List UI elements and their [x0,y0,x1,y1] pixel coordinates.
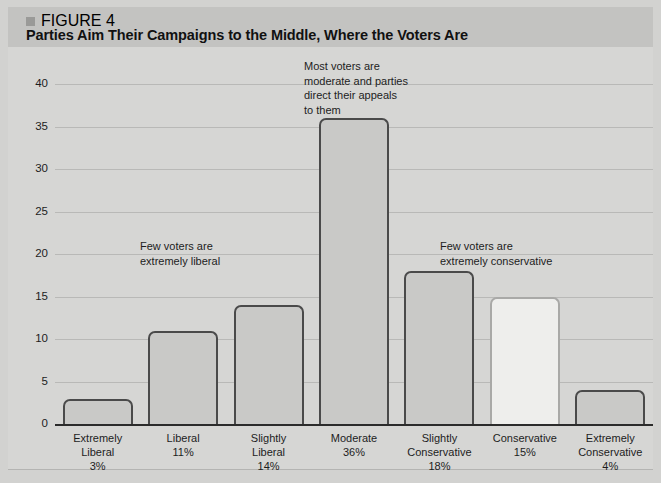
x-axis-label-line-1: Slightly [226,431,311,445]
figure-title: Parties Aim Their Campaigns to the Middl… [26,27,468,43]
x-axis-label-line-2: Conservative [397,445,482,459]
bar-conservative[interactable] [490,297,560,425]
figure-container: FIGURE 4 Parties Aim Their Campaigns to … [0,0,661,483]
x-axis-label-line-1: Extremely [55,431,140,445]
y-axis-tick-label: 35 [22,120,48,132]
x-axis-label-line-2: Liberal [226,445,311,459]
bar-slightly-liberal[interactable] [234,305,304,424]
y-axis-tick-label: 20 [22,247,48,259]
y-axis-tick-label: 15 [22,290,48,302]
x-axis-label-line-3: 14% [226,459,311,473]
x-axis-label: SlightlyConservative18% [397,431,482,473]
x-axis-label-line-1: Conservative [482,431,567,445]
x-axis-label-line-1: Liberal [140,431,225,445]
x-axis-label: ExtremelyLiberal3% [55,431,140,473]
x-axis-label-line-3: 4% [568,459,653,473]
x-axis-label-line-3: 18% [397,459,482,473]
plot-area: 0510152025303540 ExtremelyLiberal3%Liber… [8,47,653,470]
square-bullet-icon [26,17,35,26]
y-axis-tick-label: 30 [22,162,48,174]
bar-moderate[interactable] [319,118,389,424]
x-axis-line [55,424,653,426]
annotation-right: Few voters are extremely conservative [440,239,553,268]
annotation-center: Most voters are moderate and parties dir… [304,59,408,117]
annotation-left: Few voters are extremely liberal [140,239,220,268]
x-axis-label-line-2: Conservative [568,445,653,459]
x-axis-label-line-1: Slightly [397,431,482,445]
x-axis-label: SlightlyLiberal14% [226,431,311,473]
x-axis-label: ExtremelyConservative4% [568,431,653,473]
x-axis-label-line-2: 36% [311,445,396,459]
x-axis-label-line-1: Extremely [568,431,653,445]
y-axis-tick-label: 0 [22,417,48,429]
x-axis-label-line-2: Liberal [55,445,140,459]
x-axis-label-line-2: 15% [482,445,567,459]
x-axis-label: Moderate36% [311,431,396,459]
bar-slightly-conservative[interactable] [404,271,474,424]
bar-liberal[interactable] [148,331,218,425]
y-axis-tick-label: 5 [22,375,48,387]
x-axis-label: Conservative15% [482,431,567,459]
bar-extremely-conservative[interactable] [575,390,645,424]
y-axis-tick-label: 40 [22,77,48,89]
y-axis-tick-label: 25 [22,205,48,217]
x-axis-label: Liberal11% [140,431,225,459]
bar-extremely-liberal[interactable] [63,399,133,425]
x-axis-label-line-3: 3% [55,459,140,473]
x-axis-label-line-2: 11% [140,445,225,459]
figure-header-band: FIGURE 4 Parties Aim Their Campaigns to … [8,7,653,47]
y-axis-tick-label: 10 [22,332,48,344]
x-axis-label-line-1: Moderate [311,431,396,445]
